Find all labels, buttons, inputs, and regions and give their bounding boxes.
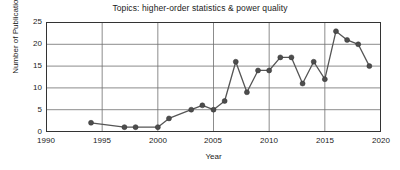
data-point-marker — [166, 116, 171, 121]
data-point-marker — [278, 55, 283, 60]
data-point-marker — [356, 42, 361, 47]
data-point-marker — [89, 120, 94, 125]
data-point-marker — [122, 125, 127, 130]
data-point-marker — [289, 55, 294, 60]
data-point-marker — [300, 81, 305, 86]
gridlines — [47, 23, 381, 132]
data-point-marker — [211, 107, 216, 112]
data-point-marker — [322, 77, 327, 82]
data-point-marker — [256, 68, 261, 73]
data-point-marker — [333, 29, 338, 34]
plot-area — [0, 0, 400, 170]
data-point-marker — [155, 125, 160, 130]
data-point-marker — [222, 98, 227, 103]
data-point-marker — [367, 64, 372, 69]
chart-figure: Topics: higher-order statistics & power … — [0, 0, 400, 170]
data-point-marker — [200, 103, 205, 108]
data-point-marker — [311, 59, 316, 64]
data-point-marker — [233, 59, 238, 64]
data-point-marker — [267, 68, 272, 73]
data-line — [91, 31, 369, 127]
data-point-marker — [189, 107, 194, 112]
data-point-marker — [133, 125, 138, 130]
data-point-marker — [244, 90, 249, 95]
data-point-marker — [345, 37, 350, 42]
